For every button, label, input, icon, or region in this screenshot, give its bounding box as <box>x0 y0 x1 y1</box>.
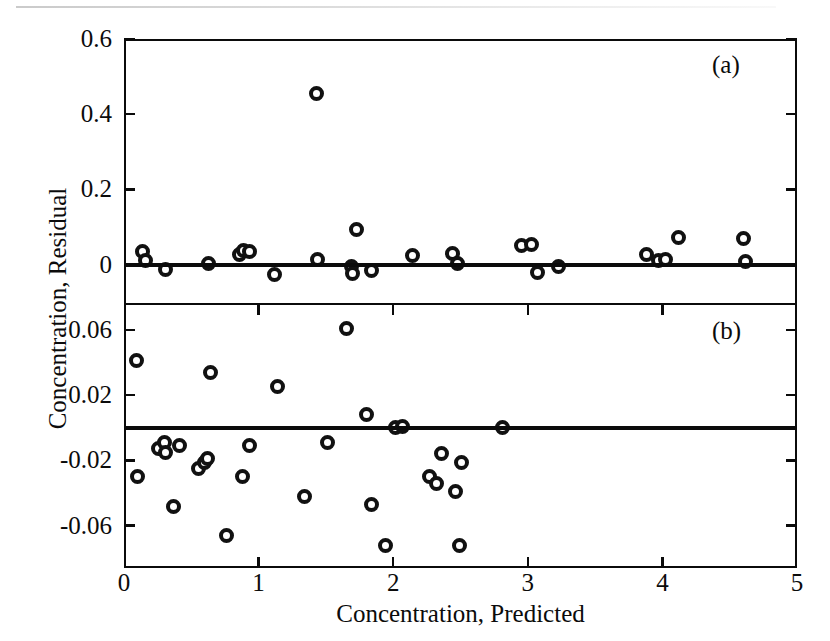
data-point <box>339 321 354 336</box>
y-tick-b-neg0_02-tick <box>124 459 135 462</box>
x-axis-title: Concentration, Predicted <box>124 600 797 627</box>
y-tick-b-0_02-tick <box>124 394 135 397</box>
data-point <box>736 231 751 246</box>
data-point <box>242 438 257 453</box>
x-tick-label-2: 2 <box>363 570 423 595</box>
data-point <box>454 455 469 470</box>
x-tick-label-3: 3 <box>498 570 558 595</box>
x-tick-inner-1 <box>257 305 260 315</box>
y-tick-a-0_6-tick <box>124 38 135 41</box>
x-tick-3 <box>527 557 530 568</box>
zero-line-panel-b <box>124 426 797 430</box>
y-tick-right-0_2 <box>786 188 797 191</box>
x-tick-inner-2 <box>392 305 395 315</box>
data-point <box>452 538 467 553</box>
x-tick-label-5: 5 <box>767 570 827 595</box>
data-point <box>219 528 234 543</box>
panel-b-label: (b) <box>712 318 741 343</box>
data-point <box>267 267 282 282</box>
x-tick-4 <box>661 557 664 568</box>
data-point <box>242 244 257 259</box>
y-tick-right-0_06 <box>786 329 797 332</box>
y-tick-right-neg0_06 <box>786 524 797 527</box>
data-point <box>158 445 173 460</box>
x-tick-2 <box>392 557 395 568</box>
data-point <box>203 365 218 380</box>
data-point <box>364 497 379 512</box>
data-point <box>530 265 545 280</box>
x-tick-label-4: 4 <box>632 570 692 595</box>
zero-line-panel-a <box>124 263 797 267</box>
data-point <box>359 407 374 422</box>
data-point <box>172 438 187 453</box>
x-tick-label-1: 1 <box>229 570 289 595</box>
y-tick-right-0_02 <box>786 394 797 397</box>
y-axis-title: Concentration, Residual <box>44 9 71 609</box>
data-point <box>405 248 420 263</box>
data-point <box>671 230 686 245</box>
data-point <box>166 499 181 514</box>
y-tick-b-0_06-tick <box>124 329 135 332</box>
panel-a-label: (a) <box>712 52 740 77</box>
x-tick-label-0: 0 <box>94 570 154 595</box>
data-point <box>378 538 393 553</box>
data-point <box>448 484 463 499</box>
y-tick-right-0_6 <box>786 38 797 41</box>
y-tick-right-neg0_02 <box>786 459 797 462</box>
y-tick-a-0_4-tick <box>124 113 135 116</box>
residual-scatter-figure: (a) (b) 0.60.40.200.060.02-0.02-0.06 012… <box>0 0 830 641</box>
data-point <box>429 476 444 491</box>
data-point <box>309 86 324 101</box>
x-tick-inner-4 <box>661 305 664 315</box>
data-point <box>320 435 335 450</box>
x-tick-1 <box>257 557 260 568</box>
y-tick-a-0_2-tick <box>124 188 135 191</box>
x-tick-inner-3 <box>527 305 530 315</box>
y-tick-b-neg0_06-tick <box>124 524 135 527</box>
scan-artifact-line <box>16 6 776 8</box>
y-tick-right-0_4 <box>786 113 797 116</box>
data-point <box>297 489 312 504</box>
data-point <box>129 353 144 368</box>
